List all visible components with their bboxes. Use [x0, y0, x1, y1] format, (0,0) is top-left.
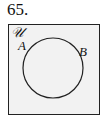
set-label-a: A: [17, 38, 26, 53]
venn-diagram: 𝒰 A B: [0, 0, 101, 120]
set-label-b: B: [79, 44, 87, 59]
